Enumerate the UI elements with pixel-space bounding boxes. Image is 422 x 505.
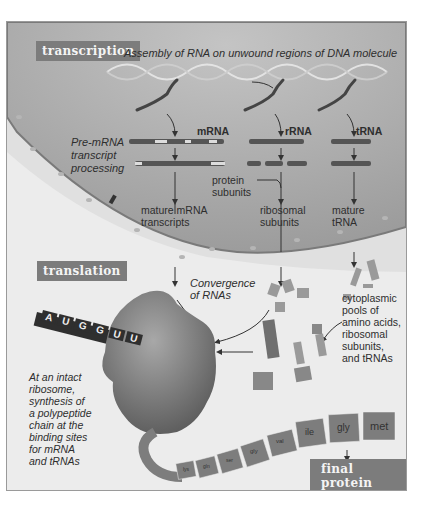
- label-rrna: rRNA: [285, 125, 312, 137]
- processing-label: Pre-mRNA transcript processing: [71, 136, 124, 175]
- translation-tag: translation: [37, 261, 127, 281]
- mature-mrna-label: mature mRNA transcripts: [141, 204, 208, 228]
- protein-subunits-label: protein subunits: [212, 174, 251, 198]
- mature-trna-label: mature tRNA: [332, 204, 365, 228]
- ribosomal-subunits-label: ribosomal subunits: [260, 204, 306, 228]
- amino-acid-label: gly: [250, 448, 258, 454]
- ribosome: [102, 291, 216, 434]
- amino-acid-label: gly: [337, 422, 350, 433]
- final-protein-tag: final protein: [310, 459, 406, 491]
- amino-acid-label: ser: [226, 457, 233, 463]
- diagram-frame: transcription Assembly of RNA on unwound…: [6, 21, 407, 491]
- label-mrna: mRNA: [197, 125, 229, 137]
- transcription-caption: Assembly of RNA on unwound regions of DN…: [124, 47, 397, 59]
- amino-acid-label: ile: [305, 427, 314, 437]
- amino-acid-label: met: [370, 420, 388, 432]
- amino-acid-label: lys: [183, 466, 189, 472]
- label-trna: tRNA: [356, 125, 382, 137]
- amino-acid-label: val: [276, 438, 284, 444]
- amino-acid-label: gln: [203, 463, 210, 469]
- ribosome-caption: At an intact ribosome, synthesis of a po…: [29, 371, 91, 467]
- convergence-label: Convergence of RNAs: [190, 277, 255, 301]
- cytoplasmic-pools-label: cytoplasmic pools of amino acids, riboso…: [342, 292, 401, 364]
